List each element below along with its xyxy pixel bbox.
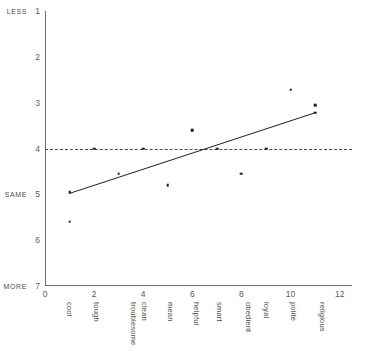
category-label-loyal: loyal (262, 302, 271, 318)
category-label-smart: smart (215, 302, 224, 322)
y-tick-label: 3 (35, 98, 40, 108)
x-tick-label: 4 (141, 289, 146, 299)
trend-line (45, 11, 352, 286)
data-point-cool (68, 191, 71, 194)
y-anchor-same: SAME (5, 191, 27, 198)
y-tick-label: 7 (35, 281, 40, 291)
x-tick-label: 8 (239, 289, 244, 299)
data-point-mean (167, 184, 170, 187)
y-anchor-more: MORE (4, 283, 27, 290)
x-tick-label: 6 (190, 289, 195, 299)
trend-line-segment (70, 113, 316, 194)
category-label-polite: polite (288, 302, 297, 321)
y-tick-label: 6 (35, 235, 40, 245)
category-label-religious: religious (318, 302, 327, 332)
data-point-religious (314, 104, 317, 107)
category-label-helpful: helpful (192, 302, 201, 326)
category-label-mean: mean (166, 302, 175, 322)
data-point-troublesome (117, 172, 120, 175)
x-tick-label: 0 (43, 289, 48, 299)
category-label-clean: clean (141, 302, 150, 321)
category-label-tough: tough (92, 302, 101, 322)
data-point-religious (314, 111, 317, 114)
chart-title (0, 0, 384, 9)
data-point-clean (142, 147, 145, 150)
category-label-obedient: obedient (245, 302, 254, 332)
y-tick-label: 2 (35, 52, 40, 62)
scatter-chart: 1234567 LESSSAMEMORE 024681012 cooltough… (0, 0, 384, 351)
plot-area: 1234567 LESSSAMEMORE 024681012 cooltough… (45, 11, 352, 286)
data-point-tough (93, 147, 96, 150)
x-tick-label: 2 (92, 289, 97, 299)
y-anchor-less: LESS (7, 8, 27, 15)
category-label-cool: cool (65, 302, 74, 317)
y-tick-label: 5 (35, 189, 40, 199)
data-point-obedient (240, 172, 243, 175)
data-point-smart (216, 147, 219, 150)
y-tick-label: 1 (35, 6, 40, 16)
data-point-cool (68, 221, 71, 224)
y-tick-label: 4 (35, 144, 40, 154)
data-point-helpful (191, 129, 194, 132)
x-tick-label: 12 (335, 289, 344, 299)
data-point-polite (289, 89, 292, 92)
data-point-loyal (265, 147, 268, 150)
category-label-troublesome: troublesome (128, 302, 137, 345)
x-tick-label: 10 (286, 289, 295, 299)
